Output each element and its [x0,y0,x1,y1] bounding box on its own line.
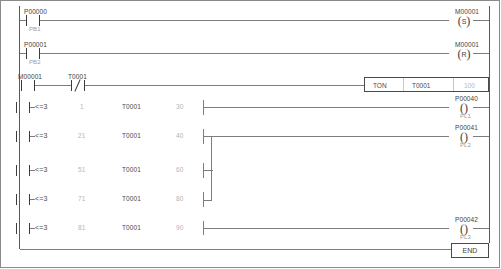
fblock-instruction: TON [373,81,387,88]
contact-bar-left [16,165,17,176]
rung-2-wire [20,53,26,54]
rung-1-wire [20,20,26,21]
rung-4-wire-right [203,107,449,108]
coil-paren-right: ) [467,47,471,61]
contact-bar-left [71,80,72,91]
compare-operator: <=3 [35,103,47,110]
rung-4-coil-wire [473,107,489,108]
coil-comment-label: PL2 [460,142,471,148]
end-rung-wire [20,249,451,250]
contact-device-label: P00001 [24,41,47,48]
fblock-divider-2 [453,78,454,91]
compare-value: 21 [78,132,85,139]
compare-operator: <=3 [35,132,47,139]
contact-compare-row-2[interactable] [16,131,30,142]
compare-value: 1 [80,103,84,110]
contact-compare-row-3[interactable] [16,165,30,176]
compare-operator: <=3 [35,166,47,173]
contact-bar-left [26,48,27,59]
compare-device: T0001 [122,195,141,202]
contact-compare-row-4[interactable] [16,194,30,205]
branch-trunk-bottom-tie [203,200,212,201]
rung-1-wire-right [45,20,449,21]
coil-comment-label: PL3 [460,234,471,240]
branch-trunk-top-tie [203,136,212,137]
compare-value: 71 [78,195,85,202]
compare-setpoint: 90 [176,224,183,231]
rung-1-coil-wire [473,20,489,21]
fblock-operand-1: T0001 [412,81,430,88]
contact-device-label: T0001 [68,73,87,80]
contact-device-label: P00000 [24,8,47,15]
contact-comment-label: PB2 [29,59,41,65]
rung-8-coil-wire [473,228,489,229]
fblock-operand-2: 100 [464,81,475,88]
contact-bar-left [16,194,17,205]
function-block-ton[interactable]: TON T0001 100 [364,77,489,92]
rung-5-wire-right [203,136,449,137]
compare-setpoint: 60 [176,166,183,173]
branch-trunk-vertical [211,136,212,200]
compare-operator: <=3 [35,224,47,231]
rung-3-wire-a [40,85,66,86]
rung-2-wire-right [45,53,449,54]
right-power-rail [489,6,490,243]
compare-device: T0001 [122,103,141,110]
contact-compare-row-1[interactable] [16,102,30,113]
compare-device: T0001 [122,224,141,231]
compare-setpoint: 40 [176,132,183,139]
contact-normally-closed-t0001[interactable] [71,80,85,91]
compare-device: T0001 [122,132,141,139]
contact-lead-left [66,85,71,86]
ladder-diagram-canvas: P00000 PB1 M00001 (S) P00001 PB2 M00001 [0,0,501,269]
compare-device: T0001 [122,166,141,173]
coil-reset-m00001[interactable]: (R) [455,48,473,60]
rung-2-coil-wire [473,53,489,54]
contact-bar-left [16,102,17,113]
compare-setpoint: 80 [176,195,183,202]
contact-device-label: M00001 [18,73,42,80]
contact-bar-left [16,223,17,234]
coil-comment-label: PL1 [460,113,471,119]
contact-comment-label: PB1 [29,26,41,32]
contact-bar-left [26,15,27,26]
contact-bar-left [21,80,22,91]
contact-normally-open-m00001[interactable] [21,80,35,91]
compare-value: 81 [78,224,85,231]
fblock-divider-1 [403,78,404,91]
rung-8-wire-right [203,228,449,229]
compare-operator: <=3 [35,195,47,202]
coil-paren-right: ) [466,14,470,28]
contact-normally-open-p00001[interactable] [26,48,40,59]
rung-5-coil-wire [473,136,489,137]
contact-bar-left [16,131,17,142]
rung-3-wire-b [90,85,364,86]
coil-modifier-letter: R [461,51,466,58]
coil-modifier-letter: S [462,18,467,25]
left-power-rail [19,6,20,249]
compare-value: 51 [78,166,85,173]
end-block[interactable]: END [451,243,489,258]
compare-setpoint: 30 [176,103,183,110]
contact-slash [74,79,80,91]
contact-normally-open-p00000[interactable] [26,15,40,26]
contact-compare-row-5[interactable] [16,223,30,234]
coil-set-m00001[interactable]: (S) [455,15,473,27]
